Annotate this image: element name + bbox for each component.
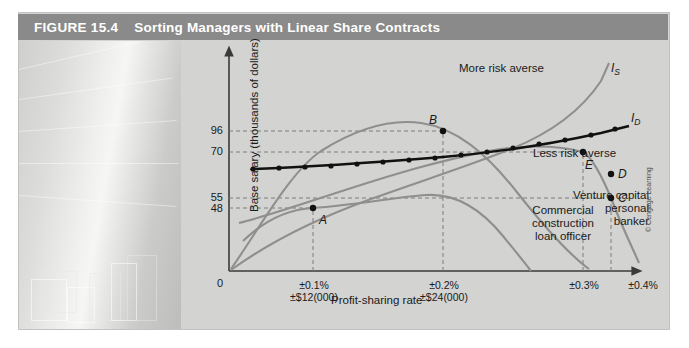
- curve-label-IS-sub: S: [614, 67, 620, 77]
- point-label-D: D: [618, 167, 627, 181]
- y-tick-70: 70: [187, 145, 223, 157]
- point-B: [440, 128, 446, 134]
- point-label-B: B: [429, 113, 437, 127]
- photo-grid-line: [19, 77, 173, 100]
- photo-grid-line: [19, 41, 165, 70]
- photo-grid-line: [19, 120, 177, 132]
- x-tick-0.1-pct: ±0.1%: [299, 279, 329, 291]
- copyright-notice: © Cengage Learning: [645, 167, 652, 232]
- curve-label-ID: ID: [631, 111, 640, 127]
- x-tick-0.4-pct: ±0.4%: [628, 279, 658, 291]
- y-tick-96: 96: [187, 124, 223, 136]
- x-tick-0.4: ±0.4%: [573, 279, 689, 291]
- origin-label: 0: [187, 277, 223, 289]
- photo-grid-line: [19, 195, 177, 207]
- annotation-more-risk-averse: More risk averse: [459, 62, 544, 75]
- curve-label-IS: IS: [611, 61, 620, 77]
- annotation-venture-capital-banker: Venture capital personal banker: [511, 189, 649, 228]
- photo-wireframe-cube: [127, 255, 157, 321]
- point-A: [310, 205, 316, 211]
- figure-container: FIGURE 15.4 Sorting Managers with Linear…: [0, 0, 689, 348]
- curve-iso-profit-low: [243, 195, 531, 271]
- y-tick-48: 48: [187, 202, 223, 214]
- curve-label-ID-sub: D: [634, 117, 640, 127]
- annotation-line-1: Venture capital: [511, 189, 649, 202]
- annotation-less-risk-averse: Less risk averse: [533, 147, 616, 160]
- point-D: [608, 171, 614, 177]
- figure-title: Sorting Managers with Linear Share Contr…: [134, 20, 440, 35]
- chart-area: Base salary (thousands of dollars) 96 70…: [181, 41, 651, 329]
- decorative-architecture-photo: [19, 41, 181, 329]
- point-label-E: E: [585, 158, 593, 172]
- point-label-A: A: [319, 213, 327, 227]
- figure-number: FIGURE 15.4: [34, 20, 118, 35]
- x-axis-title: Profit-sharing rate: [331, 294, 422, 306]
- figure-title-bar: FIGURE 15.4 Sorting Managers with Linear…: [18, 14, 668, 40]
- annotation-line-2: personal: [511, 202, 649, 215]
- photo-grid-line: [19, 163, 179, 164]
- y-axis-title: Base salary (thousands of dollars): [248, 30, 260, 220]
- annotation-line-3: banker: [511, 215, 649, 228]
- x-tick-0.2-pct: ±0.2%: [429, 279, 459, 291]
- annotation-line-3: loan officer: [499, 230, 627, 243]
